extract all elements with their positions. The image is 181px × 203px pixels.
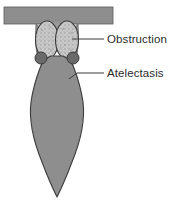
atelectasis-diagram: Obstruction Atelectasis — [0, 0, 181, 203]
figure-illustration — [0, 0, 181, 203]
label-obstruction: Obstruction — [107, 33, 167, 45]
bronchus-bar — [4, 7, 113, 24]
atelectatic-lobe — [30, 56, 83, 197]
nodule-left — [35, 52, 47, 64]
nodule-right — [67, 52, 79, 64]
label-atelectasis: Atelectasis — [107, 67, 164, 79]
